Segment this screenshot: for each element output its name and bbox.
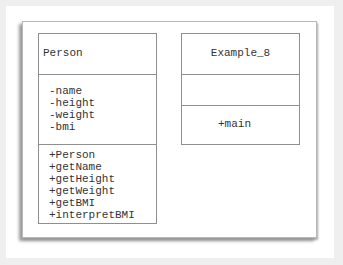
attribute: -name bbox=[49, 85, 156, 97]
operation: +main bbox=[218, 118, 299, 130]
operations-section: +main bbox=[182, 105, 299, 144]
class-name-section: Person bbox=[39, 34, 156, 74]
operation: +interpretBMI bbox=[49, 209, 156, 221]
operation: +getBMI bbox=[49, 197, 156, 209]
operation: +getName bbox=[49, 161, 156, 173]
attribute: -bmi bbox=[49, 121, 156, 133]
attributes-section: -name -height -weight -bmi bbox=[39, 74, 156, 144]
operation: +getWeight bbox=[49, 185, 156, 197]
operation: +getHeight bbox=[49, 173, 156, 185]
class-name: Example_8 bbox=[182, 47, 299, 59]
operation: +Person bbox=[49, 149, 156, 161]
attribute: -weight bbox=[49, 109, 156, 121]
class-name-section: Example_8 bbox=[182, 34, 299, 74]
attribute: -height bbox=[49, 97, 156, 109]
class-box-example-8: Example_8 +main bbox=[181, 33, 300, 145]
class-name: Person bbox=[43, 47, 156, 59]
attributes-section bbox=[182, 74, 299, 105]
class-box-person: Person -name -height -weight -bmi +Perso… bbox=[38, 33, 157, 224]
operations-section: +Person +getName +getHeight +getWeight +… bbox=[39, 144, 156, 223]
